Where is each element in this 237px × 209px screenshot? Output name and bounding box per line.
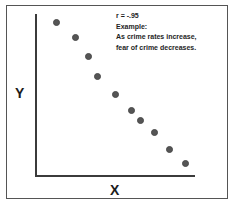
data-point <box>166 146 173 153</box>
annotation-line-correlation: r = -.95 <box>116 11 222 22</box>
y-axis-label: Y <box>15 86 24 100</box>
data-point <box>151 129 158 136</box>
data-point <box>137 117 144 124</box>
annotation-text-block: r = -.95 Example: As crime rates increas… <box>116 11 222 54</box>
data-point <box>128 107 135 114</box>
x-axis-label: X <box>110 183 119 197</box>
annotation-line-example-part1: As crime rates increase, <box>116 32 222 43</box>
data-point <box>182 160 189 167</box>
plot-area: Y X r = -.95 Example: As crime rates inc… <box>0 0 237 209</box>
data-point <box>112 91 119 98</box>
y-axis-line <box>35 14 37 177</box>
data-point <box>85 53 92 60</box>
data-point <box>53 19 60 26</box>
annotation-line-example-heading: Example: <box>116 22 222 33</box>
x-axis-line <box>35 175 195 177</box>
scatter-plot-figure: Y X r = -.95 Example: As crime rates inc… <box>0 0 237 209</box>
annotation-line-example-part2: fear of crime decreases. <box>116 43 222 54</box>
data-point <box>72 34 79 41</box>
data-point <box>94 73 101 80</box>
